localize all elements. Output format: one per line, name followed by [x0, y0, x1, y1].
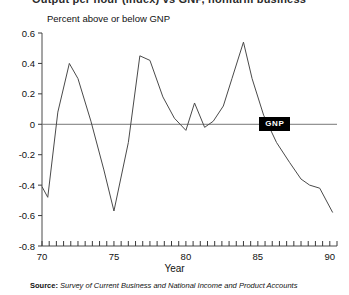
- source-value: Survey of Current Business and National …: [60, 281, 297, 290]
- svg-text:-0.4: -0.4: [19, 180, 35, 191]
- svg-text:85: 85: [253, 251, 264, 262]
- svg-text:-0.8: -0.8: [19, 241, 35, 252]
- svg-text:0: 0: [30, 119, 35, 130]
- svg-text:0.6: 0.6: [22, 28, 35, 39]
- series-label-badge: GNP: [259, 117, 290, 131]
- svg-text:80: 80: [181, 251, 192, 262]
- source-label: Source:: [30, 281, 58, 290]
- svg-text:-0.2: -0.2: [19, 149, 35, 160]
- svg-text:0.2: 0.2: [22, 88, 35, 99]
- source-note: Source: Survey of Current Business and N…: [30, 281, 297, 290]
- chart-plot-area: 0.60.40.20-0.2-0.4-0.6-0.8 7075808590: [0, 0, 349, 295]
- x-axis-ticks: 7075808590: [37, 241, 337, 262]
- svg-text:90: 90: [325, 251, 336, 262]
- svg-text:75: 75: [109, 251, 120, 262]
- chart-figure: Output per hour (index) vs GNP, nonfarm …: [0, 0, 349, 295]
- x-axis-title: Year: [0, 263, 349, 274]
- svg-text:0.4: 0.4: [22, 58, 35, 69]
- svg-text:-0.6: -0.6: [19, 210, 35, 221]
- svg-text:70: 70: [37, 251, 48, 262]
- y-axis-ticks: 0.60.40.20-0.2-0.4-0.6-0.8: [19, 28, 42, 252]
